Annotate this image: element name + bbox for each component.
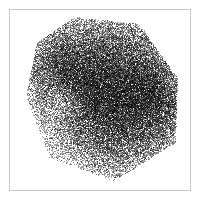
plot-area-frame (9, 9, 191, 191)
figure-root (0, 0, 200, 200)
scatter-plot-canvas (10, 10, 190, 190)
